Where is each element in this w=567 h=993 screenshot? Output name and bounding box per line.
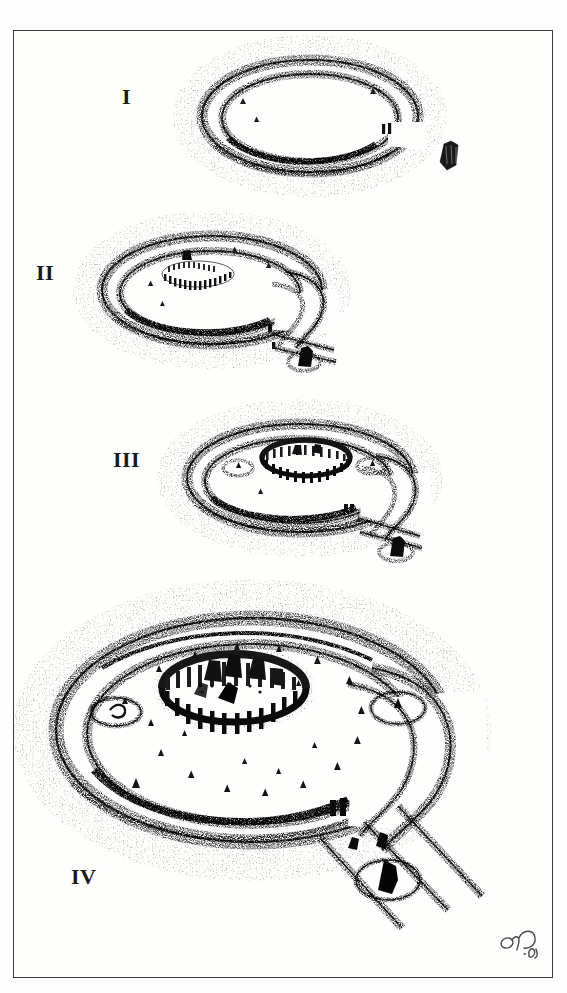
phase-three-figure — [165, 405, 445, 560]
phase-one-figure — [170, 50, 460, 190]
phase-two-figure — [80, 215, 360, 365]
figure-label-phase-three: III — [113, 449, 140, 471]
illustration-plate: I II III IV — [0, 0, 567, 993]
figure-label-phase-two: II — [36, 262, 54, 284]
phase-four-figure — [30, 580, 530, 960]
figure-label-phase-one: I — [122, 86, 131, 108]
